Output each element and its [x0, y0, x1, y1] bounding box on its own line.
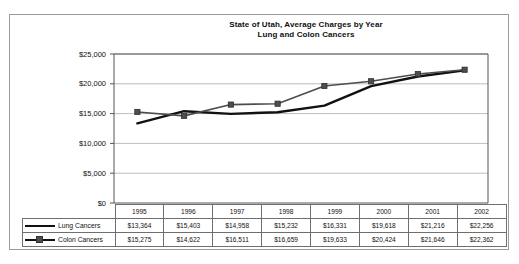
table-value-cell: $22,362: [457, 233, 506, 247]
table-year-header: 1999: [311, 205, 360, 219]
table-body: Lung Cancers$13,364$15,403$14,958$15,232…: [23, 219, 507, 247]
chart-frame: State of Utah, Average Charges by Year L…: [9, 14, 509, 250]
axis-lines: [110, 54, 488, 203]
table-corner-cell: [23, 205, 116, 219]
table-year-header: 2002: [457, 205, 506, 219]
table-year-header: 1996: [164, 205, 213, 219]
table-value-cell: $21,216: [408, 219, 457, 233]
legend-cell: Lung Cancers: [23, 219, 116, 233]
chart-figure: State of Utah, Average Charges by Year L…: [0, 0, 519, 264]
data-point-marker: [228, 102, 233, 107]
data-series-layer: [135, 67, 467, 123]
table-value-cell: $19,618: [359, 219, 408, 233]
legend-line-square-icon: [25, 235, 55, 244]
table-value-cell: $21,646: [408, 233, 457, 247]
data-point-marker: [322, 83, 327, 88]
table-value-cell: $15,403: [164, 219, 213, 233]
table-value-cell: $13,364: [115, 219, 164, 233]
table-row: Colon Cancers$15,275$14,622$16,511$16,65…: [23, 233, 507, 247]
table-value-cell: $16,659: [262, 233, 311, 247]
table-header-row: 19951996199719981999200020012002: [23, 205, 507, 219]
data-table: 19951996199719981999200020012002 Lung Ca…: [22, 204, 507, 247]
table-year-header: 1997: [213, 205, 262, 219]
table-year-header: 2000: [359, 205, 408, 219]
y-axis-tick-labels: $0$5,000$10,000$15,000$20,000$25,000: [79, 50, 106, 208]
legend-label: Colon Cancers: [58, 236, 103, 243]
table-year-header: 1995: [115, 205, 164, 219]
table-year-header: 2001: [408, 205, 457, 219]
table-value-cell: $16,331: [311, 219, 360, 233]
y-axis-tick-label: $15,000: [79, 109, 106, 118]
legend-cell: Colon Cancers: [23, 233, 116, 247]
table-value-cell: $14,958: [213, 219, 262, 233]
table-row: Lung Cancers$13,364$15,403$14,958$15,232…: [23, 219, 507, 233]
data-point-marker: [369, 79, 374, 84]
y-axis-tick-label: $20,000: [79, 79, 106, 88]
table-value-cell: $22,256: [457, 219, 506, 233]
y-axis-tick-label: $5,000: [83, 169, 106, 178]
data-point-marker: [415, 71, 420, 76]
table-value-cell: $19,633: [311, 233, 360, 247]
y-axis-tick-label: $25,000: [79, 50, 106, 59]
table-value-cell: $16,511: [213, 233, 262, 247]
legend-label: Lung Cancers: [58, 222, 100, 229]
data-point-marker: [182, 113, 187, 118]
data-point-marker: [275, 101, 280, 106]
gridlines: [114, 54, 488, 173]
data-point-marker: [462, 67, 467, 72]
y-axis-tick-label: $10,000: [79, 139, 106, 148]
data-point-marker: [135, 109, 140, 114]
table-value-cell: $15,275: [115, 233, 164, 247]
table-year-header: 1998: [262, 205, 311, 219]
legend-line-icon: [25, 221, 55, 230]
table-value-cell: $15,232: [262, 219, 311, 233]
table-value-cell: $14,622: [164, 233, 213, 247]
table-value-cell: $20,424: [359, 233, 408, 247]
